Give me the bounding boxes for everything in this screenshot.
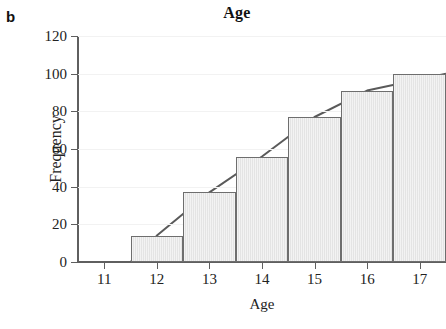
y-axis-tick-label: 80 — [52, 103, 67, 120]
x-axis-tick — [315, 262, 316, 269]
bar — [236, 157, 289, 262]
y-axis-tick — [71, 111, 78, 112]
y-axis-tick-label: 100 — [45, 65, 68, 82]
y-axis-tick-label: 40 — [52, 178, 67, 195]
x-axis-tick — [262, 262, 263, 269]
x-axis-tick-label: 12 — [149, 271, 164, 288]
x-axis-tick-label: 16 — [360, 271, 375, 288]
y-axis-tick — [71, 74, 78, 75]
x-axis-tick — [209, 262, 210, 269]
bar — [341, 91, 394, 262]
bar — [131, 236, 184, 262]
y-axis-tick — [71, 36, 78, 37]
x-axis-tick-label: 15 — [307, 271, 322, 288]
x-axis-tick-label: 14 — [255, 271, 270, 288]
y-axis-tick — [71, 224, 78, 225]
y-axis-tick — [71, 187, 78, 188]
x-axis-tick-label: 17 — [412, 271, 427, 288]
y-axis-tick — [71, 262, 78, 263]
plot-area: 02040608010012011121314151617 — [78, 36, 446, 262]
chart-title: Age — [0, 4, 446, 22]
x-axis-tick-label: 13 — [202, 271, 217, 288]
y-axis-tick-label: 20 — [52, 216, 67, 233]
gridline — [78, 74, 446, 75]
bar — [183, 192, 236, 262]
x-axis-tick — [367, 262, 368, 269]
chart-title-text: Age — [223, 4, 251, 21]
y-axis-tick-label: 0 — [60, 254, 68, 271]
y-axis-tick — [71, 149, 78, 150]
x-axis-tick-label: 11 — [97, 271, 111, 288]
x-axis-tick — [104, 262, 105, 269]
y-axis-tick-label: 60 — [52, 141, 67, 158]
x-axis-tick — [157, 262, 158, 269]
chart-figure: b Age Frequency Age 02040608010012011121… — [0, 0, 446, 329]
x-axis-title: Age — [78, 296, 446, 313]
y-axis-tick-label: 120 — [45, 28, 68, 45]
x-axis-tick — [420, 262, 421, 269]
bar — [288, 117, 341, 262]
gridline — [78, 36, 446, 37]
bar — [393, 74, 446, 262]
